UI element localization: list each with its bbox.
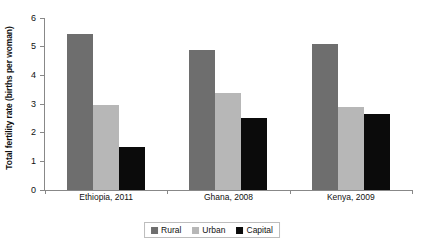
legend-item-capital[interactable]: Capital xyxy=(237,225,273,235)
y-axis-tick-mark xyxy=(40,104,44,105)
x-axis-label: Ghana, 2008 xyxy=(189,192,267,202)
y-axis-tick-label: 6 xyxy=(31,13,40,22)
bar-group xyxy=(189,18,267,190)
bar-capital xyxy=(364,114,390,190)
y-axis-tick-mark xyxy=(40,190,44,191)
bar-capital xyxy=(119,147,145,190)
y-axis-tick-mark xyxy=(40,132,44,133)
legend-label: Urban xyxy=(202,225,225,235)
bar-urban xyxy=(215,93,241,190)
plot-area: 0123456 xyxy=(44,18,412,190)
legend-swatch-icon xyxy=(192,227,199,234)
legend-swatch-icon xyxy=(151,227,158,234)
y-axis-tick-label: 4 xyxy=(31,70,40,79)
y-axis-tick-label: 1 xyxy=(31,156,40,165)
legend-label: Capital xyxy=(247,225,273,235)
y-axis-tick-mark xyxy=(40,46,44,47)
x-axis-label: Kenya, 2009 xyxy=(312,192,390,202)
bar-urban xyxy=(93,105,119,190)
bar-capital xyxy=(241,118,267,190)
bar-groups xyxy=(45,18,412,190)
bar-group xyxy=(67,18,145,190)
legend-label: Rural xyxy=(161,225,181,235)
y-axis-tick-mark xyxy=(40,18,44,19)
legend-swatch-icon xyxy=(237,227,244,234)
bar-group xyxy=(312,18,390,190)
x-axis-tick-mark xyxy=(412,190,413,194)
y-axis-tick-label: 3 xyxy=(31,99,40,108)
x-axis-labels: Ethiopia, 2011Ghana, 2008Kenya, 2009 xyxy=(45,192,412,210)
y-axis-tick-label: 5 xyxy=(31,42,40,51)
y-axis-tick-mark xyxy=(40,75,44,76)
bar-rural xyxy=(67,34,93,190)
y-axis-tick-label: 0 xyxy=(31,185,40,194)
x-axis-label: Ethiopia, 2011 xyxy=(67,192,145,202)
legend-item-rural[interactable]: Rural xyxy=(151,225,181,235)
y-axis-ticks: 0123456 xyxy=(6,18,44,190)
chart-legend: RuralUrbanCapital xyxy=(144,222,280,238)
legend-item-urban[interactable]: Urban xyxy=(192,225,225,235)
bar-rural xyxy=(189,50,215,190)
bar-urban xyxy=(338,107,364,190)
y-axis-tick-mark xyxy=(40,161,44,162)
fertility-rate-bar-chart: Total fertility rate (births per woman) … xyxy=(0,0,424,247)
y-axis-tick-label: 2 xyxy=(31,128,40,137)
bar-rural xyxy=(312,44,338,190)
